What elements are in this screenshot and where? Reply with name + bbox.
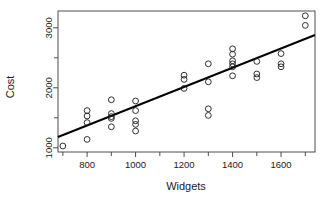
svg-text:3000: 3000	[44, 17, 55, 38]
data-point	[302, 23, 308, 29]
svg-text:1000: 1000	[44, 137, 55, 158]
scatter-plot: 8001000120014001600 100020003000 Widgets…	[0, 0, 326, 197]
data-point	[254, 59, 260, 65]
chart-canvas: 8001000120014001600 100020003000 Widgets…	[0, 0, 326, 197]
data-point	[60, 143, 66, 149]
regression-line	[58, 35, 315, 137]
data-point	[84, 113, 90, 119]
data-point	[108, 124, 114, 130]
data-point	[84, 108, 90, 114]
data-point	[302, 13, 308, 19]
svg-text:1200: 1200	[174, 159, 195, 170]
data-point	[254, 75, 260, 81]
svg-text:1000: 1000	[125, 159, 146, 170]
data-point	[205, 106, 211, 112]
data-point	[205, 79, 211, 85]
y-axis-label: Cost	[4, 76, 16, 99]
svg-text:2000: 2000	[44, 77, 55, 98]
data-point	[278, 51, 284, 57]
svg-text:1600: 1600	[270, 159, 291, 170]
svg-text:1400: 1400	[222, 159, 243, 170]
data-point	[108, 97, 114, 103]
data-point	[181, 77, 187, 83]
data-point	[133, 128, 139, 134]
data-points	[60, 13, 308, 149]
x-axis-label: Widgets	[166, 180, 206, 192]
data-point	[205, 61, 211, 67]
y-tick-labels: 100020003000	[44, 17, 55, 158]
data-point	[133, 108, 139, 114]
data-point	[230, 51, 236, 57]
x-tick-labels: 8001000120014001600	[79, 159, 291, 170]
x-axis-ticks	[63, 152, 305, 157]
svg-text:800: 800	[79, 159, 95, 170]
data-point	[133, 98, 139, 104]
data-point	[230, 73, 236, 79]
data-point	[84, 137, 90, 143]
data-point	[133, 122, 139, 128]
data-point	[230, 46, 236, 52]
data-point	[205, 113, 211, 119]
